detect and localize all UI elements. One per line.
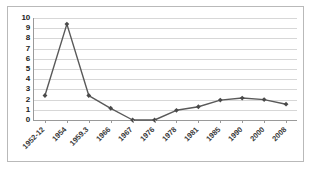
series-line	[45, 24, 286, 120]
x-axis-tick-label: 1954	[62, 125, 68, 131]
x-axis-tick-label-text: 1990	[238, 125, 244, 131]
x-axis-tick-label: 1976	[150, 125, 156, 131]
y-axis-tick-label: 7	[16, 45, 30, 53]
x-axis-tick-label-text: 1976	[150, 125, 156, 131]
data-point-marker	[284, 102, 289, 107]
x-axis-tick-label-text: 1967	[128, 125, 134, 131]
data-point-marker	[43, 93, 48, 98]
chart-container: 012345678910 1952-1219541959.31966196719…	[7, 6, 304, 162]
x-axis-tick-label: 1985	[216, 125, 222, 131]
y-axis-tick-label: 10	[16, 14, 30, 22]
x-axis-tick-label: 1978	[172, 125, 178, 131]
chart-plot-wrapper: 012345678910 1952-1219541959.31966196719…	[8, 7, 305, 163]
data-point-marker	[262, 97, 267, 102]
x-axis-tick-label: 1981	[194, 125, 200, 131]
x-axis: 1952-1219541959.319661967197619781981198…	[33, 123, 296, 163]
x-axis-tick-label: 1966	[106, 125, 112, 131]
x-axis-tick-label: 1967	[128, 125, 134, 131]
y-axis: 012345678910	[16, 18, 30, 120]
data-point-marker	[174, 108, 179, 113]
data-point-marker	[64, 22, 69, 27]
y-axis-tick-label: 1	[16, 106, 30, 114]
x-axis-tick-label-text: 2000	[260, 125, 266, 131]
x-axis-tick-label-text: 1978	[172, 125, 178, 131]
y-axis-tick-label: 3	[16, 85, 30, 93]
y-axis-tick-label: 2	[16, 96, 30, 104]
y-axis-tick-label: 5	[16, 65, 30, 73]
x-axis-tick-label-text: 2008	[282, 125, 288, 131]
y-axis-tick-label: 9	[16, 24, 30, 32]
x-axis-tick-label-text: 1952-12	[40, 125, 46, 131]
x-axis-tick-label: 1990	[238, 125, 244, 131]
x-axis-tick-label: 1952-12	[40, 125, 46, 131]
y-axis-tick-label: 8	[16, 34, 30, 42]
data-point-marker	[218, 98, 223, 103]
line-series	[34, 18, 297, 120]
x-axis-tick-label-text: 1954	[62, 125, 68, 131]
x-axis-tick-label-text: 1985	[216, 125, 222, 131]
y-axis-tick-label: 6	[16, 55, 30, 63]
y-axis-tick-label: 0	[16, 116, 30, 124]
x-axis-tick-label: 2000	[260, 125, 266, 131]
x-axis-tick-label-text: 1959.3	[84, 125, 90, 131]
x-axis-tick-label-text: 1981	[194, 125, 200, 131]
data-point-marker	[240, 96, 245, 101]
data-point-marker	[196, 104, 201, 109]
y-axis-tick-label: 4	[16, 75, 30, 83]
x-axis-tick-label: 2008	[282, 125, 288, 131]
x-axis-tick-label-text: 1966	[106, 125, 112, 131]
plot-area	[33, 18, 297, 121]
x-axis-tick-label: 1959.3	[84, 125, 90, 131]
